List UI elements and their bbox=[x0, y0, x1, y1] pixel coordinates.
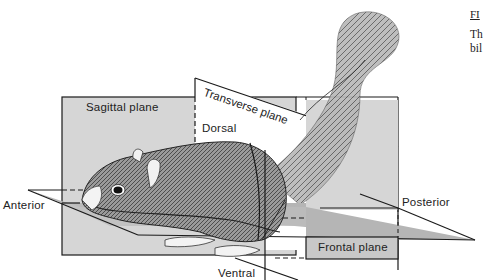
planes-illustration bbox=[0, 0, 485, 280]
label-posterior: Posterior bbox=[402, 196, 450, 208]
label-sagittal-plane: Sagittal plane bbox=[86, 101, 159, 113]
label-dorsal: Dorsal bbox=[202, 122, 236, 134]
caption-line-2: bil bbox=[470, 42, 482, 54]
caption-line-1: Th bbox=[470, 28, 483, 40]
label-anterior: Anterior bbox=[3, 199, 45, 211]
label-ventral: Ventral bbox=[218, 267, 255, 279]
figure-heading: FI bbox=[470, 8, 480, 20]
label-frontal-plane: Frontal plane bbox=[318, 241, 388, 253]
anatomical-planes-diagram: Transverse plane Sagittal plane Dorsal A… bbox=[0, 0, 485, 280]
